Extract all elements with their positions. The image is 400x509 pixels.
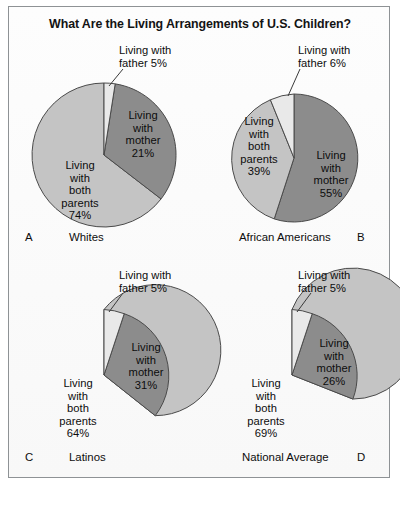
slice-value: 31%: [112, 379, 180, 392]
slice-value: 55%: [297, 187, 365, 200]
slice-c-mother-label: Living with mother 31%: [112, 341, 180, 391]
slice-b-mother-label: Living with mother 55%: [297, 149, 365, 199]
label-line: with: [33, 390, 123, 403]
label-line: mother: [109, 134, 177, 147]
label-line: mother: [112, 366, 180, 379]
slice-value: 64%: [33, 427, 123, 440]
pie-chart-c: Living with both parents 64% Living with…: [11, 267, 202, 467]
slice-value: 69%: [221, 427, 311, 440]
panel-letter-a: A: [25, 231, 33, 243]
label-line: mother: [297, 174, 365, 187]
pie-chart-b: Living with both parents 39% Living with…: [199, 47, 390, 247]
label-line: parents: [221, 415, 311, 428]
label-line: with: [219, 128, 299, 141]
label-line: Living with: [298, 269, 350, 282]
label-line: father 5%: [119, 282, 171, 295]
label-line: Living: [300, 337, 368, 350]
label-line: both: [35, 184, 125, 197]
slice-a-father-label: Living with father 5%: [119, 44, 171, 69]
label-line: Living: [33, 377, 123, 390]
label-line: Living: [297, 149, 365, 162]
slice-d-both-parents-label: Living with both parents 69%: [221, 377, 311, 440]
group-caption-c: Latinos: [69, 451, 106, 463]
label-line: with: [300, 350, 368, 363]
slice-d-father-label: Living with father 5%: [298, 269, 350, 294]
slice-value: 26%: [300, 375, 368, 388]
group-caption-a: Whites: [69, 231, 104, 243]
leader-line-a-father: [109, 69, 123, 86]
label-line: father 6%: [298, 57, 350, 70]
slice-b-father-label: Living with father 6%: [298, 44, 350, 69]
label-line: parents: [33, 415, 123, 428]
label-line: with: [112, 354, 180, 367]
label-line: parents: [35, 197, 125, 210]
label-line: Living with: [119, 44, 171, 57]
label-line: both: [33, 402, 123, 415]
page-title: What Are the Living Arrangements of U.S.…: [9, 17, 391, 31]
pie-chart-d: Living with both parents 69% Living with…: [199, 267, 390, 467]
label-line: with: [221, 390, 311, 403]
label-line: Living: [35, 159, 125, 172]
label-line: father 5%: [298, 282, 350, 295]
slice-d-mother-label: Living with mother 26%: [300, 337, 368, 387]
label-line: both: [221, 402, 311, 415]
label-line: Living with: [298, 44, 350, 57]
slice-value: 39%: [219, 165, 299, 178]
slice-value: 74%: [35, 209, 125, 222]
label-line: with: [297, 162, 365, 175]
label-line: parents: [219, 153, 299, 166]
panel-letter-c: C: [25, 451, 33, 463]
panel-letter-d: D: [357, 451, 365, 463]
label-line: with: [35, 172, 125, 185]
slice-a-mother-label: Living with mother 21%: [109, 109, 177, 159]
chart-panel: What Are the Living Arrangements of U.S.…: [8, 6, 390, 478]
leader-line-b-father: [288, 69, 300, 96]
label-line: Living: [219, 115, 299, 128]
figure-root: What Are the Living Arrangements of U.S.…: [0, 0, 400, 509]
slice-value: 21%: [109, 147, 177, 160]
slice-c-both-parents-label: Living with both parents 64%: [33, 377, 123, 440]
group-caption-b: African Americans: [239, 231, 331, 243]
label-line: Living: [112, 341, 180, 354]
label-line: Living: [221, 377, 311, 390]
label-line: Living with: [119, 269, 171, 282]
slice-b-both-parents-label: Living with both parents 39%: [219, 115, 299, 178]
label-line: father 5%: [119, 57, 171, 70]
label-line: mother: [300, 362, 368, 375]
label-line: Living: [109, 109, 177, 122]
slice-c-father-label: Living with father 5%: [119, 269, 171, 294]
label-line: both: [219, 140, 299, 153]
group-caption-d: National Average: [242, 451, 329, 463]
label-line: with: [109, 122, 177, 135]
slice-a-both-parents-label: Living with both parents 74%: [35, 159, 125, 222]
panel-letter-b: B: [357, 231, 365, 243]
pie-chart-a: Living with both parents 74% Living with…: [11, 47, 202, 247]
caption-strip: [10, 492, 390, 508]
